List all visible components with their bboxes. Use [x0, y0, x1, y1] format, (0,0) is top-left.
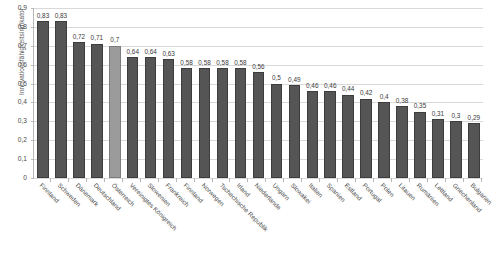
y-tick-label: 0,2 [1, 137, 27, 144]
bar-slot: 0,72 [70, 8, 88, 178]
x-tick-mark [177, 178, 195, 182]
x-label-slot: Italien [302, 183, 320, 253]
bar-slot: 0,64 [124, 8, 142, 178]
bar-value-label: 0,44 [342, 86, 354, 92]
bar-slot: 0,58 [178, 8, 196, 178]
bar-value-label: 0,46 [324, 83, 336, 89]
y-axis-title: Innovationsfähigkeitsindikator [18, 0, 25, 137]
bar-value-label: 0,46 [306, 83, 318, 89]
bar[interactable] [396, 106, 407, 178]
bar-slot: 0,5 [267, 8, 285, 178]
bar[interactable] [163, 59, 174, 178]
bar[interactable] [235, 68, 246, 178]
bar-value-label: 0,72 [73, 34, 85, 40]
bar-slot: 0,56 [249, 8, 267, 178]
bar-slot: 0,49 [285, 8, 303, 178]
bar-slot: 0,58 [214, 8, 232, 178]
bar[interactable] [342, 95, 353, 178]
x-label-slot: Finnland [33, 183, 51, 253]
x-label-slot: Rumänien [410, 183, 428, 253]
bar-value-label: 0,3 [451, 113, 460, 119]
bar-value-label: 0,4 [380, 94, 389, 100]
bar[interactable] [253, 72, 264, 178]
bar-slot: 0,35 [411, 8, 429, 178]
y-tick-label: 0,8 [1, 24, 27, 31]
bar-slot: 0,42 [357, 8, 375, 178]
bar[interactable] [378, 102, 389, 178]
y-tick-label: 0,1 [1, 156, 27, 163]
y-tick-label: 0,7 [1, 43, 27, 50]
bar-value-label: 0,83 [55, 13, 67, 19]
bar[interactable] [181, 68, 192, 178]
bar-value-label: 0,64 [144, 49, 156, 55]
x-label-slot: Estland [338, 183, 356, 253]
bar[interactable] [55, 21, 66, 178]
bar[interactable] [468, 123, 479, 178]
x-label-slot: Litauen [392, 183, 410, 253]
x-label-slot: Griechenland [446, 183, 464, 253]
x-label-slot: Bulgarien [464, 183, 482, 253]
bar[interactable] [432, 119, 443, 178]
bar-value-label: 0,58 [198, 60, 210, 66]
x-label-slot: Ungarn [266, 183, 284, 253]
x-axis-labels: FinnlandSchwedenDänemarkDeutschlandÖster… [33, 183, 482, 253]
bar-value-label: 0,58 [216, 60, 228, 66]
x-label-slot: Österreich [105, 183, 123, 253]
bar-value-label: 0,58 [234, 60, 246, 66]
bar-slot: 0,7 [106, 8, 124, 178]
bar[interactable] [109, 46, 120, 178]
bar-value-label: 0,49 [288, 77, 300, 83]
x-label-slot: Tschechische Republik [213, 183, 231, 253]
bar[interactable] [127, 57, 138, 178]
x-label-slot: Lettland [428, 183, 446, 253]
bar[interactable] [289, 85, 300, 178]
bar-value-label: 0,64 [127, 49, 139, 55]
y-tick-label: 0 [1, 175, 27, 182]
bar-slot: 0,46 [303, 8, 321, 178]
bar-value-label: 0,35 [414, 103, 426, 109]
bar-slot: 0,3 [447, 8, 465, 178]
bar-slot: 0,63 [160, 8, 178, 178]
bar[interactable] [271, 84, 282, 178]
bar[interactable] [360, 99, 371, 178]
bar[interactable] [217, 68, 228, 178]
bar-value-label: 0,5 [272, 75, 281, 81]
bar-slot: 0,64 [142, 8, 160, 178]
bar-value-label: 0,56 [252, 64, 264, 70]
y-tick-label: 0,4 [1, 99, 27, 106]
bar-value-label: 0,7 [110, 37, 119, 43]
bar[interactable] [450, 121, 461, 178]
bar-value-label: 0,83 [37, 13, 49, 19]
x-tick-label: Bulgarien [469, 182, 493, 206]
bar[interactable] [91, 44, 102, 178]
bar[interactable] [37, 21, 48, 178]
bar-slot: 0,46 [321, 8, 339, 178]
x-label-slot: Slowakei [284, 183, 302, 253]
x-label-slot: Finnland [177, 183, 195, 253]
x-label-slot: Polen [374, 183, 392, 253]
x-label-slot: Dänemark [69, 183, 87, 253]
bar[interactable] [145, 57, 156, 178]
bar-series: 0,830,830,720,710,70,640,640,630,580,580… [34, 8, 483, 178]
x-label-slot: Niederlande [248, 183, 266, 253]
bar[interactable] [73, 42, 84, 178]
bar[interactable] [324, 91, 335, 178]
x-label-slot: Irland [230, 183, 248, 253]
bar-slot: 0,83 [34, 8, 52, 178]
bar-slot: 0,71 [88, 8, 106, 178]
x-label-slot: Deutschland [87, 183, 105, 253]
bar[interactable] [199, 68, 210, 178]
bar-value-label: 0,58 [180, 60, 192, 66]
bar-value-label: 0,38 [396, 98, 408, 104]
x-tick-mark [195, 178, 213, 182]
x-label-slot: Frankreich [159, 183, 177, 253]
bar-slot: 0,38 [393, 8, 411, 178]
bar-slot: 0,29 [465, 8, 483, 178]
bar[interactable] [307, 91, 318, 178]
bar[interactable] [414, 112, 425, 178]
plot-area: 0,90,80,70,60,50,40,30,20,10 0,830,830,7… [33, 8, 483, 179]
bar-slot: 0,31 [429, 8, 447, 178]
bar-slot: 0,83 [52, 8, 70, 178]
bar-slot: 0,58 [196, 8, 214, 178]
